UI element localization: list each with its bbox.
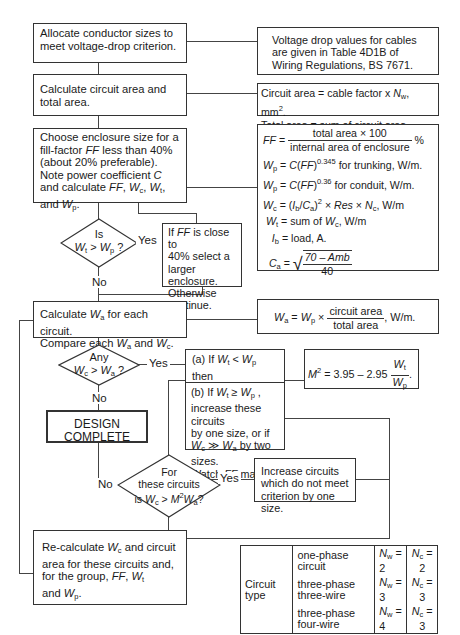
no-label: No [96,478,115,490]
step-text: If FF is close to [168,226,236,250]
connector [389,418,390,539]
step-text: larger enclosure. [168,263,236,287]
connector [284,418,389,419]
step-text: for the group, FF, Wt [42,570,178,587]
step-text: and calculate FF, Wc, Wt, [40,181,180,198]
table-cell-nw: Nw = 4 [375,604,407,634]
formula-wa: Wa = Wp × circuit areatotal area, W/m. [264,305,432,331]
note-formulas: FF = total area × 100internal area of en… [257,124,439,271]
no-label: No [90,276,109,288]
step-text: Increase circuits which do not meet crit… [261,465,349,514]
step-option-b: (b) If Wt ≥ Wp , increase these circuits… [185,382,285,450]
note-circuit-area: Circuit area = cable factor x Nw, mm2. T… [257,83,439,116]
formula-ib: Ib = load, A. [263,232,433,248]
table-cell-nc: Nc = 2 [407,546,438,576]
formula-wc: Wc = (Ib/Ca)2 × Res × Nc, W/m [263,195,433,215]
yes-label: Yes [218,472,241,484]
step-text: Choose enclosure size for a [40,131,180,144]
table-cell-nw: Nw = 3 [375,575,407,604]
connector [168,380,169,455]
note-text: Voltage drop values for cables are given… [272,34,417,71]
loop-connector [19,320,33,321]
connector [187,93,257,94]
table-cell-nw: Nw = 2 [375,546,407,576]
connector [187,319,257,320]
note-voltage-drop: Voltage drop values for cables are given… [257,27,439,75]
table-cell-type: three-phase three-wire [293,575,375,604]
step-calculate-wa: Calculate Wa for each circuit. Compare e… [33,301,187,338]
step-text: Note power coefficient C [40,169,180,182]
flowchart-canvas: Allocate conductor sizes to meet voltage… [0,0,460,635]
design-complete-terminal: DESIGN COMPLETE [46,410,148,443]
step-text: Re-calculate Wc and circuit [42,541,178,558]
step-text: by one size, or if [191,427,279,439]
step-text: and Wp. [40,198,180,215]
formula-m2: M2 = 3.95 – 2.95 WtWp. [308,358,415,392]
note-m2-formula: M2 = 3.95 – 2.95 WtWp. [304,349,419,389]
table-row-header: Circuit type [241,546,293,634]
step-ff-close: If FF is close to 40% select a larger en… [162,223,242,287]
connector [168,380,185,381]
note-wa-formula: Wa = Wp × circuit areatotal area, W/m. [257,299,439,334]
step-text: and Wp. [42,587,178,604]
decision-text: Is Wt > Wp ? [66,228,132,257]
step-text: Otherwise [168,287,236,299]
step-text: increase these circuits [191,402,279,427]
connector [355,479,389,480]
terminal-text: DESIGN COMPLETE [64,417,130,444]
formula-wp-conduit: Wp = C(FF)0.36 for conduit, W/m. [263,175,433,195]
step-increase-circuits: Increase circuits which do not meet crit… [254,458,356,502]
decision-text: Any Wc > Wa ? [66,351,132,380]
circuit-type-table: Circuit type one-phase circuit Nw = 2 Nc… [240,545,438,634]
step-text: Allocate conductor sizes to meet voltage… [40,27,176,52]
connector [185,538,389,539]
step-text: Calculate Wa for each circuit. [40,308,180,337]
table-cell-type: three-phase four-wire [293,604,375,634]
formula-wp-trunking: Wp = C(FF)0.345 for trunking, W/m. [263,155,433,175]
step-text: Calculate circuit area and total area. [40,83,166,108]
connector [98,62,99,74]
formula-ca: Ca = √70 – Amb40 [263,250,433,279]
table-cell-nc: Nc = 3 [407,575,438,604]
note-text: Circuit area = cable factor x Nw, mm2. [261,87,435,119]
step-text: area for these circuits and, [42,558,178,571]
connector [284,380,304,381]
step-text: (about 20% preferable). [40,156,180,169]
no-label: No [90,392,109,404]
step-text: fill-factor FF less than 40% [40,144,180,157]
yes-label: Yes [136,234,159,246]
table-cell-nc: Nc = 3 [407,604,438,634]
step-text: 40% select a [168,250,236,262]
step-allocate-conductors: Allocate conductor sizes to meet voltage… [33,23,187,63]
step-text: (a) If Wt < Wp then [192,353,278,382]
step-recalculate: Re-calculate Wc and circuit area for the… [33,530,187,605]
step-calculate-area: Calculate circuit area and total area. [33,74,187,116]
formula-ff: FF = total area × 100internal area of en… [263,127,433,155]
formula-wt: Wt = sum of Wc, W/m [263,215,433,231]
decision-text: For these circuits is Wc > M2Wa? [128,467,210,509]
connector [196,213,197,223]
connector [187,41,257,42]
step-text: (b) If Wt ≥ Wp , [191,386,279,402]
step-option-a: (a) If Wt < Wp then calculate M2. [185,349,285,383]
loop-connector [19,573,33,574]
connector [98,442,99,482]
connector [187,187,257,188]
step-choose-enclosure: Choose enclosure size for a fill-factor … [33,128,187,203]
loop-connector [19,320,20,574]
table-cell-type: one-phase circuit [293,546,375,576]
yes-label: Yes [147,357,170,369]
